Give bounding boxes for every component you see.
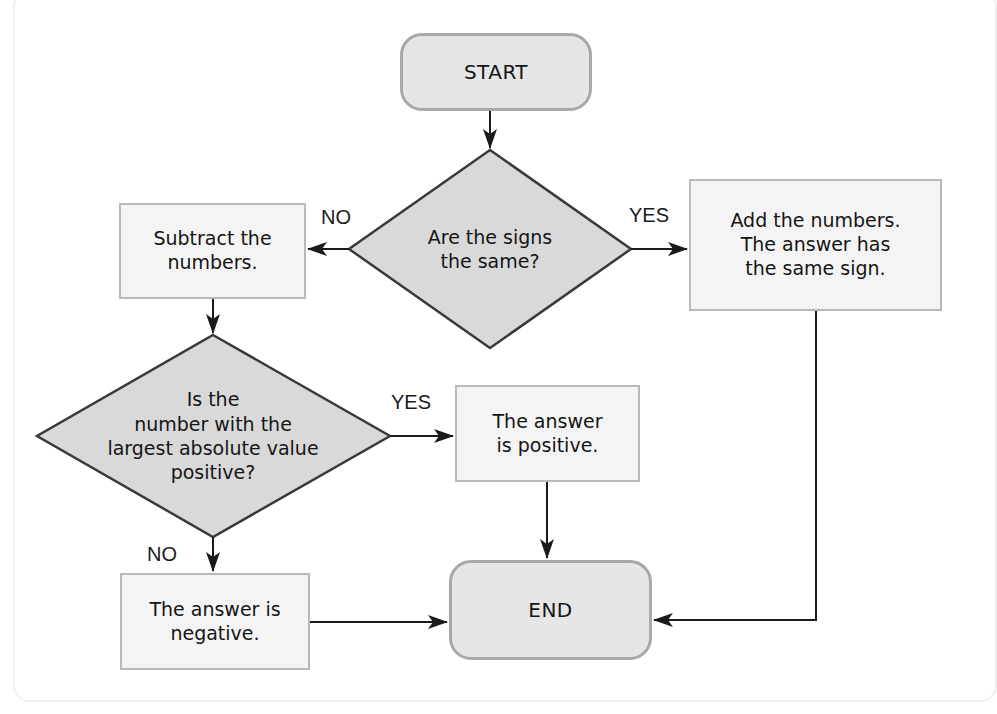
positive-node: The answer is positive. — [455, 385, 640, 482]
subtract-node: Subtract the numbers. — [119, 203, 306, 299]
add-label: Add the numbers. The answer has the same… — [730, 209, 900, 280]
negative-node: The answer is negative. — [120, 573, 310, 670]
branch-yes-label-1: YES — [629, 204, 669, 227]
start-label: START — [464, 60, 528, 85]
decision-signs-node: Are the signs the same? — [390, 205, 590, 293]
start-node: START — [400, 33, 592, 111]
branch-no-label-2: NO — [147, 543, 177, 566]
end-node: END — [449, 560, 652, 660]
branch-yes-label-2: YES — [391, 391, 431, 414]
decision-largest-label: Is the number with the largest absolute … — [107, 387, 318, 484]
negative-label: The answer is negative. — [149, 598, 280, 646]
subtract-label: Subtract the numbers. — [153, 227, 271, 275]
add-node: Add the numbers. The answer has the same… — [689, 179, 942, 311]
decision-signs-label: Are the signs the same? — [428, 225, 553, 274]
decision-largest-node: Is the number with the largest absolute … — [63, 376, 363, 496]
end-label: END — [528, 598, 573, 623]
arrow-add-to-end — [654, 311, 816, 620]
branch-no-label-1: NO — [321, 206, 351, 229]
positive-label: The answer is positive. — [492, 410, 602, 458]
